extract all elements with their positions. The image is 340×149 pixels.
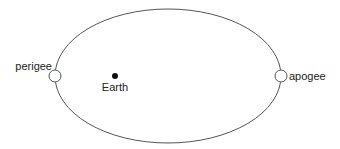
perigee-label: perigee	[15, 60, 52, 72]
apogee-marker-icon	[275, 70, 287, 82]
orbit-diagram: Earth perigee apogee	[0, 0, 340, 149]
apogee-label: apogee	[289, 70, 326, 82]
earth-dot-icon	[112, 73, 118, 79]
elliptical-orbit	[55, 9, 281, 143]
earth-label: Earth	[102, 81, 128, 93]
